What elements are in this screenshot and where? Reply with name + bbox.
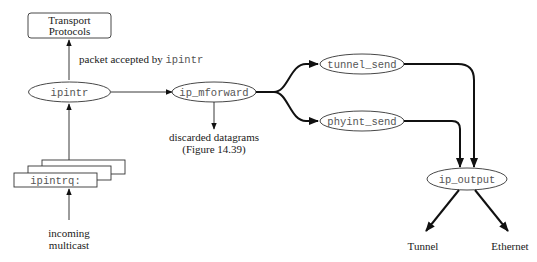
svg-text:ipintr: ipintr [51, 87, 89, 99]
edge-phyint-send-to-ip-output [404, 121, 460, 167]
svg-text:ip_mforward: ip_mforward [179, 87, 248, 99]
packet-accepted-label: packet accepted by ipintr [79, 53, 203, 66]
edge-ip-mforward-to-tunnel-send [256, 64, 318, 92]
discarded-label-line1: discarded datagrams [169, 131, 259, 143]
edge-ip-output-to-ethernet [475, 190, 508, 231]
ethernet-label: Ethernet [491, 240, 528, 252]
ip-mforward-node: ip_mforward [172, 82, 256, 102]
svg-text:tunnel_send: tunnel_send [327, 59, 396, 71]
incoming-label-line2: multicast [49, 239, 89, 251]
tunnel-send-node: tunnel_send [320, 54, 404, 74]
transport-protocols-node: Transport Protocols [28, 13, 111, 38]
edge-ip-output-to-tunnel [426, 190, 459, 231]
tunnel-label: Tunnel [408, 240, 439, 252]
ipintr-node: ipintr [29, 82, 111, 102]
svg-text:phyint_send: phyint_send [327, 116, 396, 128]
incoming-label-line1: incoming [48, 227, 90, 239]
svg-text:ip_output: ip_output [439, 174, 496, 186]
ipintrq-node: ipintrq: [14, 160, 125, 187]
discarded-label-line2: (Figure 14.39) [182, 143, 246, 156]
multicast-flow-diagram: Transport Protocols packet accepted by i… [0, 0, 537, 262]
ip-output-node: ip_output [427, 168, 507, 190]
edge-tunnel-send-to-ip-output [404, 64, 474, 167]
svg-text:ipintrq:: ipintrq: [30, 175, 80, 187]
transport-label-line2: Protocols [49, 25, 91, 37]
edge-ip-mforward-to-phyint-send [274, 92, 318, 121]
phyint-send-node: phyint_send [320, 111, 404, 131]
